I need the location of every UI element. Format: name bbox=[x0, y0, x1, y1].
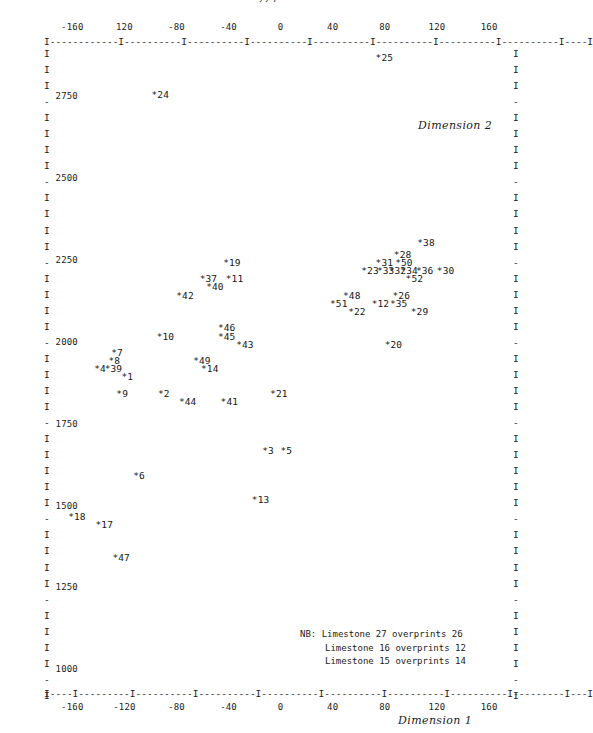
x-axis-top-tick-4: 0 bbox=[278, 22, 284, 32]
y-axis-title: Dimension 2 bbox=[418, 119, 492, 132]
x-axis-bottom-tick-8: 160 bbox=[481, 702, 498, 712]
x-axis-bottom-tick-7: 120 bbox=[429, 702, 446, 712]
x-axis-title: Dimension 1 bbox=[398, 714, 472, 727]
data-point-52: *52 bbox=[406, 274, 423, 284]
plot-border-right: I I I - I I I I - I I I I - I I I I - I … bbox=[513, 46, 519, 704]
x-axis-top-tick-7: 120 bbox=[429, 22, 446, 32]
data-point-22: *22 bbox=[348, 307, 365, 317]
data-point-51: *51 bbox=[330, 299, 347, 309]
data-point-2: *2 bbox=[158, 389, 170, 399]
data-point-35: *35 bbox=[390, 299, 407, 309]
x-axis-bottom-tick-5: 40 bbox=[327, 702, 338, 712]
x-axis-bottom-tick-3: -40 bbox=[220, 702, 237, 712]
x-axis-top-tick-1: 120 bbox=[116, 22, 133, 32]
footnote-line-2: Limestone 15 overprints 14 bbox=[300, 655, 466, 669]
data-point-38: *38 bbox=[417, 238, 434, 248]
x-axis-bottom-tick-6: 80 bbox=[379, 702, 390, 712]
data-point-17: *17 bbox=[96, 520, 113, 530]
data-point-3: *3 bbox=[262, 446, 274, 456]
data-point-18: *18 bbox=[68, 512, 85, 522]
x-axis-top-rule: I------------I----------I----------I----… bbox=[44, 36, 593, 47]
data-point-19: *19 bbox=[223, 258, 240, 268]
data-point-39: *39 bbox=[105, 364, 122, 374]
data-point-45: *45 bbox=[218, 332, 235, 342]
x-axis-top-tick-6: 80 bbox=[379, 22, 390, 32]
data-point-24: *24 bbox=[152, 90, 169, 100]
y-axis-tick-0: 2750 bbox=[44, 91, 78, 101]
data-point-14: *14 bbox=[201, 364, 218, 374]
footnote-line-0: NB: Limestone 27 overprints 26 bbox=[300, 628, 466, 642]
data-point-20: *20 bbox=[385, 340, 402, 350]
plot-border-left: I I I - I I I I - I I I I - I I I I - I … bbox=[44, 46, 50, 704]
data-point-9: *9 bbox=[116, 389, 128, 399]
x-axis-top-tick-0: -160 bbox=[61, 22, 83, 32]
data-point-43: *43 bbox=[236, 340, 253, 350]
data-point-11: *11 bbox=[226, 274, 243, 284]
data-point-10: *10 bbox=[157, 332, 174, 342]
x-axis-bottom-tick-4: 0 bbox=[278, 702, 284, 712]
y-axis-tick-7: 1000 bbox=[44, 664, 78, 674]
data-point-12: *12 bbox=[372, 299, 389, 309]
x-axis-bottom-tick-2: -80 bbox=[168, 702, 185, 712]
x-axis-top-tick-5: 40 bbox=[327, 22, 338, 32]
data-point-47: *47 bbox=[112, 553, 129, 563]
data-point-6: *6 bbox=[133, 471, 145, 481]
data-point-29: *29 bbox=[411, 307, 428, 317]
x-axis-top-tick-8: 160 bbox=[481, 22, 498, 32]
footnote-note: NB: Limestone 27 overprints 26Limestone … bbox=[300, 628, 466, 669]
y-axis-tick-2: 2250 bbox=[44, 255, 78, 265]
data-point-13: *13 bbox=[252, 495, 269, 505]
y-axis-tick-4: 1750 bbox=[44, 419, 78, 429]
y-axis-tick-3: 2000 bbox=[44, 337, 78, 347]
data-point-44: *44 bbox=[179, 397, 196, 407]
x-axis-top-tick-3: -40 bbox=[220, 22, 237, 32]
data-point-1: *1 bbox=[122, 372, 134, 382]
data-point-21: *21 bbox=[270, 389, 287, 399]
y-axis-tick-1: 2500 bbox=[44, 173, 78, 183]
data-point-5: *5 bbox=[281, 446, 293, 456]
data-point-42: *42 bbox=[176, 291, 193, 301]
data-point-30: *30 bbox=[437, 266, 454, 276]
x-axis-bottom-tick-0: -160 bbox=[61, 702, 83, 712]
data-point-40: *40 bbox=[206, 282, 223, 292]
x-axis-top-tick-2: -80 bbox=[168, 22, 185, 32]
x-axis-bottom-rule: I----I---------I----------I----------I--… bbox=[44, 688, 593, 699]
x-axis-bottom-tick-1: -120 bbox=[113, 702, 135, 712]
data-point-25: *25 bbox=[376, 53, 393, 63]
footnote-line-1: Limestone 16 overprints 12 bbox=[300, 642, 466, 656]
y-axis-tick-6: 1250 bbox=[44, 582, 78, 592]
data-point-41: *41 bbox=[221, 397, 238, 407]
y-axis-tick-5: 1500 bbox=[44, 501, 78, 511]
